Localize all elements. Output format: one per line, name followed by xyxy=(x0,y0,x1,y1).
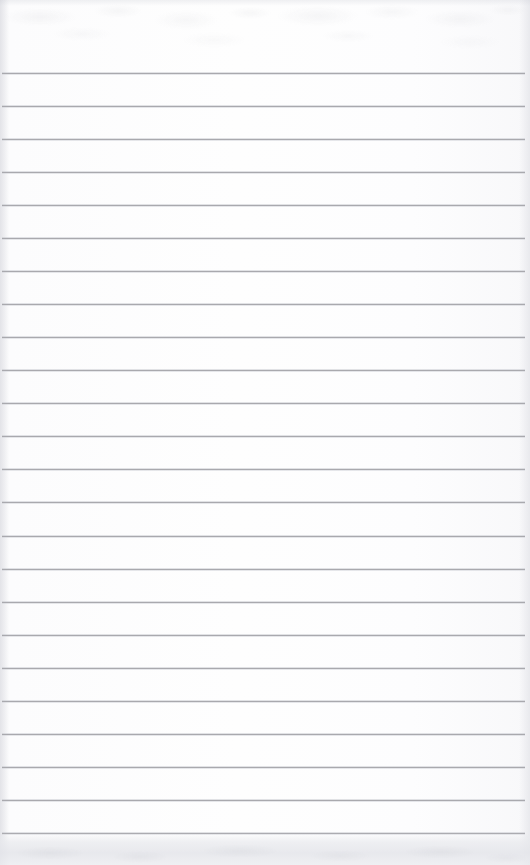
scanned-page xyxy=(0,0,530,865)
paper-background xyxy=(0,0,530,865)
